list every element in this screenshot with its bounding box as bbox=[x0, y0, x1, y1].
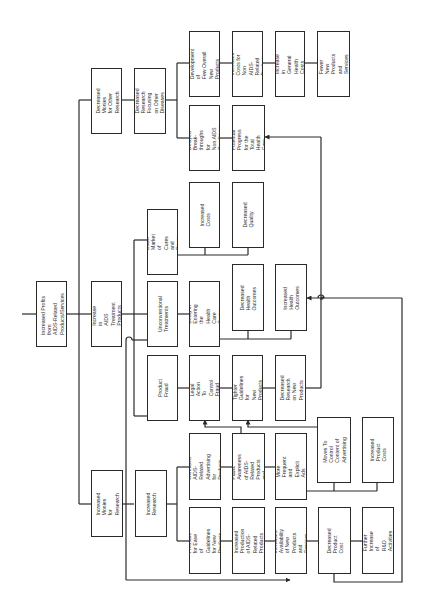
node-label: Increased Health Outcomes bbox=[282, 286, 301, 310]
node-label: Legal Action To Control Fraud bbox=[189, 380, 220, 397]
node-label: Fewer New Products and Services bbox=[318, 54, 349, 74]
node-increased-monies-research: Increased Monies for Research bbox=[91, 470, 123, 537]
node-delayed-breakthroughs: Delayed Break- throughs for Non AIDS Con… bbox=[189, 105, 220, 171]
node-unconventional-treatments: Unconventional Treatments bbox=[147, 281, 178, 347]
node-label: Decreased Research on New Products bbox=[278, 375, 303, 400]
node-label: Pressure for Ease of Guidelines for New … bbox=[189, 528, 221, 553]
node-pressure-ease-guidelines: Pressure for Ease of Guidelines for New … bbox=[189, 507, 221, 574]
node-increase-public-awareness: Increase in Public Awareness of AIDS- Re… bbox=[232, 433, 265, 500]
node-label: Decreased Health Outcomes bbox=[239, 285, 258, 310]
node-label: Increased AIDS-Related Advertising for P… bbox=[189, 454, 221, 480]
node-label: Increased Product Costs bbox=[369, 439, 388, 462]
node-label: Product Fraud bbox=[156, 379, 168, 397]
node-label: More Frequent and Explicit Ads bbox=[275, 456, 306, 477]
node-decreased-research-other-diseases: Decreased Research Focusing on Other Dis… bbox=[134, 68, 166, 134]
node-label: Increased Costs for Non AIDS-Related Pro… bbox=[232, 53, 263, 76]
node-poorer-potential-progress: Poorer Potential Progress for the Total … bbox=[232, 105, 265, 171]
node-increased-research: Increased Research bbox=[135, 470, 167, 537]
node-label: Increased Production of AIDS-Related Pro… bbox=[233, 528, 264, 553]
node-more-frequent-ads: More Frequent and Explicit Ads bbox=[275, 433, 307, 500]
node-label: Increase in General Health Costs bbox=[275, 54, 305, 74]
node-fewer-new-products: Fewer New Products and Services bbox=[317, 31, 350, 97]
node-label: Increased Monies for Research bbox=[95, 492, 120, 515]
node-label: Unconventional Treatments bbox=[156, 296, 168, 332]
flow-diagram: Increased Profits from AIDS-Related Prod… bbox=[0, 0, 424, 606]
node-tighter-guidelines: Tighter Guidelines for New Products bbox=[232, 355, 263, 421]
node-decreased-health-outcomes: Decreased Health Outcomes bbox=[232, 264, 264, 331]
node-moves-control-advertising: Moves To Control Content of Advertising bbox=[317, 417, 351, 483]
node-label: Delay in Entering the Health Care System bbox=[189, 304, 220, 323]
node-legal-action-control-fraud: Legal Action To Control Fraud bbox=[189, 355, 220, 421]
node-label: Increased Costs bbox=[198, 204, 210, 227]
node-label: Decreased Monies for Other Research bbox=[94, 88, 119, 113]
node-increased-production: Increased Production of AIDS-Related Pro… bbox=[232, 507, 265, 574]
node-decreased-quality: Decreased Quality bbox=[232, 182, 264, 248]
node-increased-availability: Increased Availability of New Products a… bbox=[275, 507, 307, 574]
node-increased-costs-non-aids: Increased Costs for Non AIDS-Related Pro… bbox=[232, 31, 263, 97]
node-increased-product-costs: Increased Product Costs bbox=[362, 417, 394, 483]
node-label: Decreased Research Focusing on Other Dis… bbox=[134, 88, 165, 113]
node-delay-entering-health-care: Delay in Entering the Health Care System bbox=[189, 281, 220, 347]
node-increased-health-outcomes: Increased Health Outcomes bbox=[275, 264, 307, 331]
node-label: Increased Availability of New Products a… bbox=[275, 528, 307, 552]
node-decreased-research-new-products: Decreased Research on New Products bbox=[275, 355, 306, 421]
node-further-rd-activities: Further Increase of R&D Activities bbox=[362, 507, 394, 574]
node-decreased-monies-other-research: Decreased Monies for Other Research bbox=[91, 68, 122, 134]
node-increase-aids-treatment-products: Increase in AIDS Treatment Products bbox=[91, 281, 122, 347]
node-black-market: Black Market of Cures and Drugs bbox=[147, 209, 178, 275]
node-product-fraud: Product Fraud bbox=[147, 355, 178, 421]
node-development-fewer-products: Development of Few Overall New Products bbox=[189, 31, 220, 97]
node-label: Increase in Public Awareness of AIDS- Re… bbox=[232, 454, 265, 480]
node-label: Delayed Break- throughs for Non AIDS Con… bbox=[189, 126, 220, 151]
node-label: Increase in AIDS Treatment Products bbox=[91, 302, 122, 325]
node-label: Poorer Potential Progress for the Total … bbox=[232, 126, 265, 151]
node-increased-aids-advertising: Increased AIDS-Related Advertising for P… bbox=[189, 433, 221, 500]
node-label: Decreased Product Cost bbox=[325, 528, 344, 553]
node-increase-general-health-costs: Increase in General Health Costs bbox=[275, 31, 305, 97]
node-label: Development of Few Overall New Products bbox=[189, 49, 220, 80]
node-label: Decreased Quality bbox=[242, 202, 254, 227]
node-increased-profits: Increased Profits from AIDS-Related Prod… bbox=[36, 281, 67, 347]
node-label: Black Market of Cures and Drugs bbox=[147, 234, 178, 250]
node-label: Moves To Control Content of Advertising bbox=[322, 437, 347, 463]
node-label: Increased Research bbox=[145, 492, 157, 515]
node-label: Tighter Guidelines for New Products bbox=[232, 376, 263, 401]
node-decreased-product-cost: Decreased Product Cost bbox=[318, 507, 351, 574]
node-label: Further Increase of R&D Activities bbox=[362, 530, 393, 550]
node-increased-costs: Increased Costs bbox=[189, 182, 220, 248]
node-label: Increased Profits from AIDS-Related Prod… bbox=[39, 293, 64, 335]
